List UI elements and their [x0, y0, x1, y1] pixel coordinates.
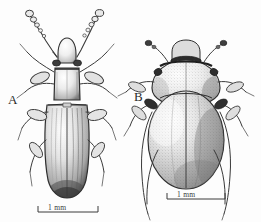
beetle-illustration-plate: [0, 0, 261, 222]
figure-a-right-eye: [74, 60, 82, 66]
figure-a-scutellum: [63, 103, 71, 107]
figure-b-label: B: [134, 89, 143, 105]
figure-a-head: [58, 38, 76, 63]
figure-a-left-eye: [53, 60, 61, 66]
figure-b-scale-bar-label: 1 mm: [177, 190, 196, 199]
figure-a-scale-bar-label: 1 mm: [48, 203, 67, 212]
figure-a-label: A: [8, 92, 18, 108]
